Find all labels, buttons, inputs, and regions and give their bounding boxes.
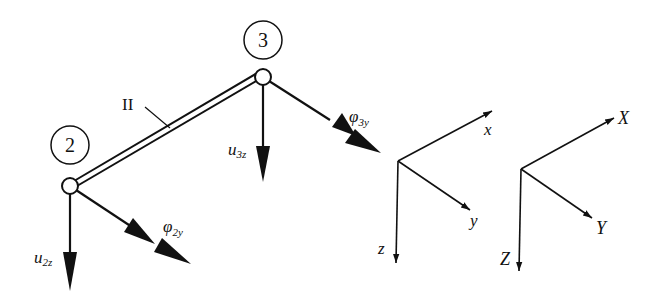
- member-II: [74, 72, 263, 186]
- member-label-leader: [145, 107, 170, 128]
- node-2-label: 2: [51, 126, 89, 164]
- global-Z-label: Z: [500, 249, 511, 269]
- svg-text:3: 3: [258, 29, 268, 51]
- node-3: [255, 69, 271, 85]
- svg-text:2: 2: [65, 134, 75, 156]
- u3z-arrow: [256, 85, 270, 182]
- u2z-label: u2z: [34, 248, 53, 268]
- member-label: II: [122, 95, 134, 114]
- node-3-label: 3: [244, 21, 282, 59]
- node-2: [62, 178, 78, 194]
- local-axes: [396, 111, 492, 263]
- beam-element-diagram: II 3 2 u3z φ3y u2z φ2y: [0, 0, 664, 305]
- global-axes: [519, 118, 614, 271]
- phi3y-label: φ3y: [349, 107, 369, 128]
- phi2y-label: φ2y: [163, 217, 183, 238]
- local-z-label: z: [377, 239, 385, 258]
- global-X-label: X: [617, 108, 630, 128]
- u3z-label: u3z: [228, 140, 247, 160]
- local-x-label: x: [483, 120, 492, 139]
- global-Y-label: Y: [596, 218, 608, 238]
- local-y-label: y: [468, 211, 478, 230]
- u2z-arrow: [63, 194, 77, 291]
